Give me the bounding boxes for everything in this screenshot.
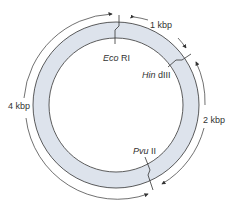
plasmid-diagram <box>0 0 232 209</box>
ecori-label: Eco RI <box>103 53 130 63</box>
segment-1kbp-label: 1 kbp <box>150 20 172 30</box>
segment-4kbp-label: 4 kbp <box>8 101 30 111</box>
arc-1kbp-start <box>134 17 148 20</box>
arc-1kbp-end <box>178 38 186 48</box>
pvuii-label: Pvu II <box>133 146 156 156</box>
hindiii-label: Hin dIII <box>142 70 171 80</box>
segment-2kbp-label: 2 kbp <box>203 115 225 125</box>
